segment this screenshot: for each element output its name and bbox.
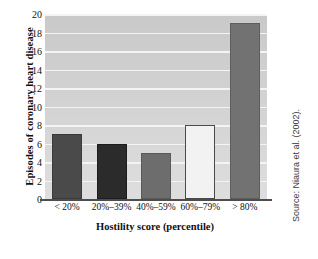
x-tick-label: 40%–59% [134, 202, 178, 212]
bar[interactable] [230, 23, 260, 199]
y-tick-label: 0 [20, 194, 42, 205]
bar[interactable] [52, 134, 82, 199]
bar-chart-figure: Episodes of coronary heart disease 02468… [0, 0, 318, 259]
y-tick-label: 4 [20, 157, 42, 168]
bar[interactable] [141, 153, 171, 199]
bar-slot [178, 14, 222, 199]
bar-slot [89, 14, 133, 199]
y-tick-label: 10 [20, 101, 42, 112]
y-tick-label: 12 [20, 83, 42, 94]
bar-slot [134, 14, 178, 199]
y-tick-label: 8 [20, 120, 42, 131]
y-tick-label: 14 [20, 64, 42, 75]
bar-slot [45, 14, 89, 199]
x-axis-line [40, 199, 272, 201]
y-tick-label: 20 [20, 9, 42, 20]
x-tick-label: 60%–79% [178, 202, 222, 212]
x-axis-title: Hostility score (percentile) [30, 221, 280, 232]
bar-series [45, 14, 267, 199]
x-axis-tick-labels: < 20%20%–39%40%–59%60%–79%> 80% [45, 202, 267, 212]
y-tick-label: 18 [20, 27, 42, 38]
x-tick-label: 20%–39% [89, 202, 133, 212]
y-axis-tick-labels: 02468101214161820 [20, 14, 42, 199]
y-tick-label: 16 [20, 46, 42, 57]
source-note: Source: Niaura et al. (2002). [291, 62, 301, 222]
plot-area [45, 14, 267, 199]
x-tick-label: < 20% [45, 202, 89, 212]
bar-slot [223, 14, 267, 199]
y-tick-label: 6 [20, 138, 42, 149]
x-tick-label: > 80% [223, 202, 267, 212]
y-tick-label: 2 [20, 175, 42, 186]
bar[interactable] [97, 144, 127, 200]
bar[interactable] [185, 125, 215, 199]
